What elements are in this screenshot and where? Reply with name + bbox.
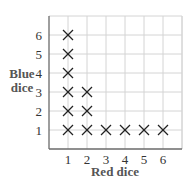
y-axis-label: dice bbox=[11, 80, 34, 95]
y-tick-label: 1 bbox=[36, 123, 43, 138]
x-tick-label: 2 bbox=[84, 152, 91, 167]
x-tick-label: 6 bbox=[160, 152, 167, 167]
y-axis-label: Blue bbox=[9, 66, 35, 81]
y-tick-label: 5 bbox=[36, 47, 43, 62]
data-points bbox=[63, 30, 168, 135]
dice-scatter-chart: 123456123456Red diceBluedice bbox=[0, 0, 193, 194]
x-axis-label: Red dice bbox=[91, 164, 139, 179]
y-tick-label: 3 bbox=[36, 85, 43, 100]
y-tick-label: 6 bbox=[36, 28, 43, 43]
y-tick-label: 2 bbox=[36, 104, 43, 119]
x-tick-label: 1 bbox=[65, 152, 72, 167]
y-tick-label: 4 bbox=[36, 66, 43, 81]
x-tick-label: 5 bbox=[141, 152, 148, 167]
